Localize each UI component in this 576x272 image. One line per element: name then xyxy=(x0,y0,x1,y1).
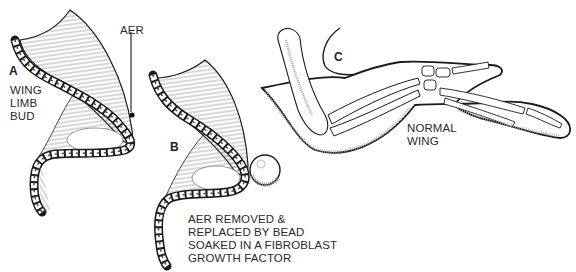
panel-b-caption-line: GROWTH FACTOR xyxy=(188,252,337,265)
panel-b-caption-line: AER REMOVED & xyxy=(188,213,337,226)
panel-b-caption-line: REPLACED BY BEAD xyxy=(188,226,337,239)
panel-a-caption-line: LIMB xyxy=(10,97,42,110)
panel-c-caption-line: WING xyxy=(407,135,457,148)
wing-limb-bud-diagram: A WING LIMB BUD AER B AER REMOVED & REPL… xyxy=(0,0,576,272)
panel-a-caption: WING LIMB BUD xyxy=(10,84,42,123)
panel-b-letter: B xyxy=(170,140,179,154)
panel-b-caption: AER REMOVED & REPLACED BY BEAD SOAKED IN… xyxy=(188,213,337,265)
panel-b-caption-line: SOAKED IN A FIBROBLAST xyxy=(188,239,337,252)
panel-a-caption-line: BUD xyxy=(10,110,42,123)
aer-label: AER xyxy=(120,24,144,37)
panel-a-letter: A xyxy=(9,64,18,78)
panel-c-caption-line: NORMAL xyxy=(407,122,457,135)
panel-c-letter: C xyxy=(334,50,343,64)
panel-a-caption-line: WING xyxy=(10,84,42,97)
panel-c-caption: NORMAL WING xyxy=(407,122,457,148)
